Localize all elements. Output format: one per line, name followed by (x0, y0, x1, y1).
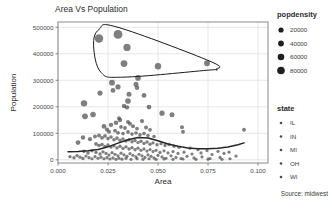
scatter-point (162, 149, 165, 152)
scatter-point (142, 93, 147, 98)
scatter-point (98, 152, 101, 155)
scatter-point (131, 154, 134, 157)
y-axis-tick-label: 500000 (33, 24, 54, 31)
scatter-point (166, 151, 169, 154)
scatter-point (114, 120, 119, 125)
scatter-point (171, 158, 174, 161)
scatter-point (104, 152, 107, 155)
scatter-point (137, 153, 140, 156)
scatter-point (134, 131, 138, 135)
state-legend-key-IN[interactable] (280, 135, 283, 138)
scatter-point (170, 112, 175, 117)
state-legend-key-OH[interactable] (280, 162, 283, 165)
scatter-point (90, 112, 96, 118)
scatter-point (228, 157, 231, 160)
state-legend-label-MI: MI (290, 146, 297, 153)
scatter-point (114, 30, 123, 39)
scatter-point (81, 100, 87, 106)
scatter-point (145, 140, 148, 143)
scatter-point (109, 80, 115, 86)
scatter-point (151, 150, 154, 153)
scatter-point (116, 131, 120, 135)
y-axis-label: Population (9, 74, 18, 112)
scatter-point (102, 157, 105, 160)
scatter-point (206, 158, 209, 161)
y-axis-tick-label: 200000 (33, 103, 54, 110)
scatter-point (147, 157, 150, 160)
scatter-point (130, 146, 133, 149)
scatter-point (136, 146, 139, 149)
scatter-point (109, 135, 113, 139)
scatter-point (140, 119, 144, 123)
scatter-point (93, 135, 97, 139)
scatter-point (123, 126, 127, 130)
scatter-point (154, 149, 157, 152)
chart-svg: 01000002000003000004000005000000.0000.02… (0, 0, 332, 208)
y-axis-tick-label: 0 (50, 156, 54, 163)
scatter-point (126, 130, 130, 134)
state-legend-key-MI[interactable] (280, 149, 283, 152)
scatter-point (96, 157, 99, 160)
scatter-point (95, 34, 103, 42)
scatter-point (129, 158, 132, 161)
scatter-point (146, 153, 149, 156)
scatter-point (130, 132, 134, 136)
size-legend-key-80000[interactable] (277, 67, 285, 75)
x-axis-tick-label: 0.025 (100, 167, 116, 174)
size-legend-label-40000: 40000 (290, 40, 308, 47)
scatter-point (222, 152, 225, 155)
scatter-point (90, 157, 93, 160)
scatter-point (114, 158, 117, 161)
scatter-point (210, 153, 213, 156)
area-vs-population-chart: 01000002000003000004000005000000.0000.02… (0, 0, 332, 208)
scatter-point (103, 134, 107, 138)
scatter-point (148, 148, 151, 151)
scatter-point (75, 154, 78, 157)
scatter-point (159, 111, 164, 116)
scatter-point (120, 158, 123, 161)
y-axis-tick-label: 400000 (33, 50, 54, 57)
scatter-point (242, 128, 246, 132)
scatter-point (119, 152, 122, 155)
scatter-point (111, 88, 116, 93)
scatter-point (185, 155, 188, 158)
scatter-point (115, 146, 118, 149)
scatter-point (124, 145, 127, 148)
scatter-point (115, 84, 120, 89)
scatter-point (234, 155, 237, 158)
scatter-point (144, 125, 148, 129)
scatter-point (151, 141, 154, 144)
size-legend-label-80000: 80000 (290, 67, 308, 74)
scatter-point (181, 157, 184, 160)
size-legend-key-20000[interactable] (278, 27, 283, 32)
x-axis-tick-label: 0.000 (50, 167, 66, 174)
scatter-point (169, 154, 172, 157)
scatter-point (78, 155, 81, 158)
scatter-point (121, 60, 128, 67)
state-legend-key-IL[interactable] (280, 122, 283, 125)
scatter-point (142, 142, 145, 145)
scatter-point (128, 152, 131, 155)
state-legend-key-WI[interactable] (280, 176, 283, 179)
scatter-point (145, 149, 148, 152)
scatter-point (127, 147, 130, 150)
scatter-point (97, 90, 102, 95)
size-legend-key-60000[interactable] (278, 54, 285, 61)
scatter-point (133, 148, 136, 151)
scatter-point (94, 151, 97, 154)
scatter-point (182, 151, 185, 154)
scatter-point (117, 157, 120, 160)
chart-caption-source: Source: midwest (281, 190, 328, 197)
scatter-point (121, 137, 124, 140)
scatter-point (125, 105, 129, 109)
size-legend-title: popdensity (277, 10, 318, 19)
scatter-point (174, 156, 177, 159)
scatter-point (163, 144, 166, 147)
scatter-point (156, 154, 159, 157)
size-legend-key-40000[interactable] (278, 41, 284, 47)
scatter-point (72, 156, 75, 159)
state-legend-label-OH: OH (290, 160, 299, 167)
scatter-point (125, 98, 131, 104)
scatter-point (121, 147, 124, 150)
scatter-point (68, 155, 71, 158)
